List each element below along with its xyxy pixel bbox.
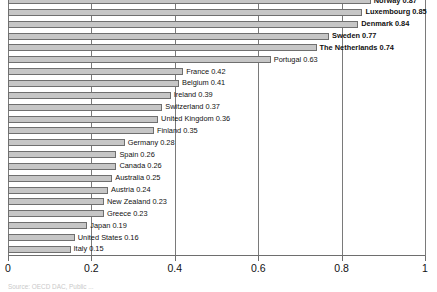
bar-label: Italy 0.15	[74, 243, 104, 255]
x-tick-mark	[175, 256, 176, 261]
source-note: Source: OECD DAC, Public ...	[8, 283, 94, 290]
x-tick-mark	[8, 256, 9, 261]
bar[interactable]	[8, 68, 183, 75]
x-tick-mark	[91, 256, 92, 261]
x-tick-mark	[425, 256, 426, 261]
bar[interactable]	[8, 44, 317, 51]
bar-row[interactable]: Luxembourg 0.85	[0, 7, 437, 19]
bar-label: Germany 0.28	[128, 137, 175, 149]
bar[interactable]	[8, 198, 104, 205]
bar-row[interactable]: The Netherlands 0.74	[0, 42, 437, 54]
bar-row[interactable]: United Kingdom 0.36	[0, 114, 437, 126]
bar-label: United States 0.16	[78, 232, 139, 244]
bar[interactable]	[8, 56, 271, 63]
bar[interactable]	[8, 0, 371, 4]
bar-label: Denmark 0.84	[361, 18, 409, 30]
x-tick-label: 0	[5, 262, 11, 274]
bar-row[interactable]: New Zealand 0.23	[0, 196, 437, 208]
bar-label: Luxembourg 0.85	[365, 6, 426, 18]
bar-label: The Netherlands 0.74	[320, 42, 394, 54]
bar-label: Finland 0.35	[157, 125, 198, 137]
bar-label: Belgium 0.41	[182, 77, 225, 89]
bar[interactable]	[8, 163, 116, 170]
bar[interactable]	[8, 21, 358, 28]
x-tick-mark	[342, 256, 343, 261]
bar-row[interactable]: Canada 0.26	[0, 161, 437, 173]
bar[interactable]	[8, 234, 75, 241]
bar-label: Portugal 0.63	[274, 54, 318, 66]
bar-row[interactable]: Switzerland 0.37	[0, 102, 437, 114]
x-tick-label: 0.6	[251, 262, 266, 274]
bar-label: Japan 0.19	[90, 220, 127, 232]
x-tick-label: 0.4	[167, 262, 182, 274]
bar-label: Canada 0.26	[119, 160, 161, 172]
bar-chart: Norway 0.87Luxembourg 0.85Denmark 0.84Sw…	[0, 0, 437, 292]
bar[interactable]	[8, 92, 171, 99]
plot-area: Norway 0.87Luxembourg 0.85Denmark 0.84Sw…	[0, 0, 437, 256]
x-tick-label: 0.2	[84, 262, 99, 274]
bar-label: Sweden 0.77	[332, 30, 376, 42]
bar[interactable]	[8, 9, 362, 16]
bar-label: Spain 0.26	[119, 149, 154, 161]
bar[interactable]	[8, 80, 179, 87]
bar-label: Austria 0.24	[111, 184, 150, 196]
x-tick-mark	[258, 256, 259, 261]
bar-row[interactable]: United States 0.16	[0, 232, 437, 244]
bar-label: Ireland 0.39	[174, 89, 213, 101]
bar-label: Greece 0.23	[107, 208, 148, 220]
bar-label: France 0.42	[186, 66, 225, 78]
bar[interactable]	[8, 104, 162, 111]
bar-row[interactable]: Sweden 0.77	[0, 31, 437, 43]
bar[interactable]	[8, 187, 108, 194]
x-tick-label: 1	[422, 262, 428, 274]
bar-label: New Zealand 0.23	[107, 196, 167, 208]
x-tick-label: 0.8	[334, 262, 349, 274]
bar-row[interactable]: Australia 0.25	[0, 173, 437, 185]
bar-row[interactable]: France 0.42	[0, 66, 437, 78]
bar-label: Australia 0.25	[115, 172, 160, 184]
bar[interactable]	[8, 139, 125, 146]
bar-label: United Kingdom 0.36	[161, 113, 230, 125]
bar[interactable]	[8, 127, 154, 134]
bar[interactable]	[8, 33, 329, 40]
bar-row[interactable]: Germany 0.28	[0, 137, 437, 149]
bar-row[interactable]: Spain 0.26	[0, 149, 437, 161]
bar[interactable]	[8, 246, 71, 253]
bar-row[interactable]: Austria 0.24	[0, 185, 437, 197]
bar-row[interactable]: Greece 0.23	[0, 208, 437, 220]
bar[interactable]	[8, 151, 116, 158]
bar[interactable]	[8, 210, 104, 217]
x-axis: 00.20.40.60.81	[0, 256, 437, 278]
bar-row[interactable]: Japan 0.19	[0, 220, 437, 232]
bar[interactable]	[8, 222, 87, 229]
bar-row[interactable]: Italy 0.15	[0, 244, 437, 256]
bar[interactable]	[8, 175, 112, 182]
bar-label: Switzerland 0.37	[165, 101, 220, 113]
bar-row[interactable]: Ireland 0.39	[0, 90, 437, 102]
bar[interactable]	[8, 116, 158, 123]
bar-row[interactable]: Portugal 0.63	[0, 54, 437, 66]
bar-row[interactable]: Finland 0.35	[0, 125, 437, 137]
bar-row[interactable]: Belgium 0.41	[0, 78, 437, 90]
bar-row[interactable]: Denmark 0.84	[0, 19, 437, 31]
